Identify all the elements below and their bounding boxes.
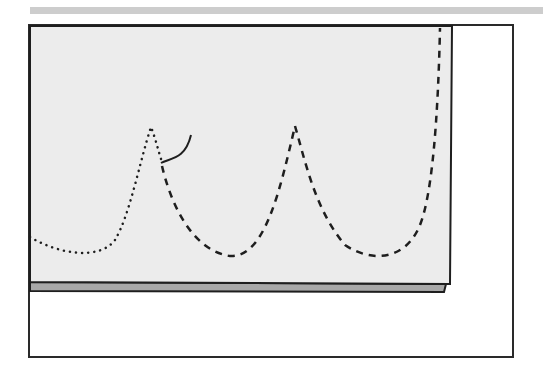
fabric-sheet	[30, 26, 452, 284]
sewing-illustration	[0, 0, 543, 370]
